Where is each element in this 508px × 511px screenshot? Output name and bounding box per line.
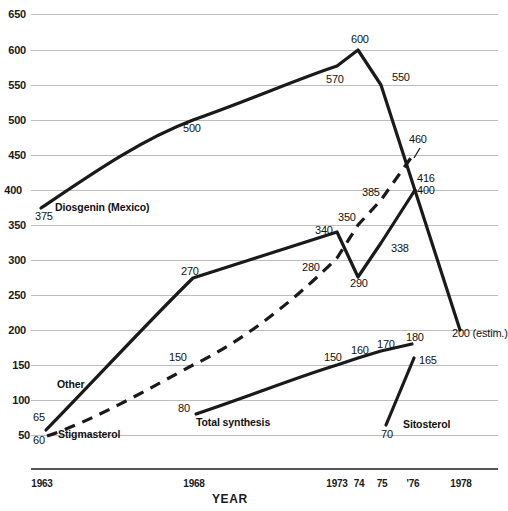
- point-label-diosgenin-375: 375: [35, 210, 53, 222]
- series-label-stigmasterol: Stigmasterol: [58, 428, 120, 440]
- y-tick-600: 600: [0, 44, 26, 56]
- point-label-other-270: 270: [181, 265, 199, 277]
- point-label-diosgenin-200: 200 (estim.): [452, 327, 508, 339]
- point-label-diosgenin-570: 570: [326, 73, 344, 85]
- series-label-total-synthesis: Total synthesis: [196, 416, 270, 428]
- y-tick-350: 350: [0, 219, 26, 231]
- y-tick-200: 200: [0, 324, 26, 336]
- series-line-sitosterol: [386, 358, 414, 425]
- point-label-other-340: 340: [315, 224, 333, 236]
- x-tick-1978: 1978: [437, 478, 485, 489]
- y-tick-150: 150: [4, 359, 30, 371]
- leader-460: [414, 148, 420, 158]
- point-label-other-65: 65: [33, 411, 45, 423]
- point-label-sitosterol-165: 165: [419, 354, 437, 366]
- point-label-sitosterol-70: 70: [381, 428, 393, 440]
- point-label-total-synthesis-80: 80: [178, 402, 190, 414]
- point-label-total-synthesis-150: 150: [324, 351, 342, 363]
- x-tick-1968: 1968: [170, 478, 218, 489]
- y-tick-300: 300: [0, 254, 26, 266]
- point-label-diosgenin-500: 500: [183, 122, 201, 134]
- point-label-other-338: 338: [391, 242, 409, 254]
- y-tick-50: 50: [4, 429, 30, 441]
- y-tick-450: 450: [0, 149, 26, 161]
- x-tick-1963: 1963: [18, 478, 66, 489]
- x-tick-76: '76: [395, 478, 431, 489]
- point-label-stigmasterol-60: 60: [33, 434, 45, 446]
- series-label-sitosterol: Sitosterol: [403, 418, 450, 430]
- x-axis-title: YEAR: [212, 492, 248, 506]
- y-tick-400: 400: [0, 184, 22, 196]
- point-label-stigmasterol-280: 280: [302, 261, 320, 273]
- y-tick-550: 550: [0, 79, 26, 91]
- point-label-other-290: 290: [350, 277, 368, 289]
- y-tick-500: 500: [0, 114, 26, 126]
- point-label-diosgenin-600: 600: [351, 33, 369, 45]
- series-label-other: Other: [57, 378, 85, 390]
- point-label-stigmasterol-460: 460: [409, 133, 427, 145]
- point-label-stigmasterol-150: 150: [169, 351, 187, 363]
- point-label-diosgenin-550: 550: [392, 71, 410, 83]
- point-label-other-400: 400: [417, 184, 435, 196]
- point-label-stigmasterol-350: 350: [338, 211, 356, 223]
- point-label-total-synthesis-170: 170: [377, 338, 395, 350]
- series-line-total-synthesis: [196, 344, 412, 414]
- label-leader-lines: [414, 148, 420, 158]
- point-label-total-synthesis-180: 180: [406, 331, 424, 343]
- series-label-diosgenin: Diosgenin (Mexico): [55, 201, 149, 213]
- series-line-other: [46, 190, 415, 430]
- y-tick-100: 100: [4, 394, 30, 406]
- y-tick-650: 650: [0, 8, 26, 20]
- point-label-total-synthesis-160: 160: [351, 344, 369, 356]
- point-label-stigmasterol-385: 385: [362, 186, 380, 198]
- point-label-stigmasterol-416: 416: [417, 172, 435, 184]
- y-tick-250: 250: [0, 289, 26, 301]
